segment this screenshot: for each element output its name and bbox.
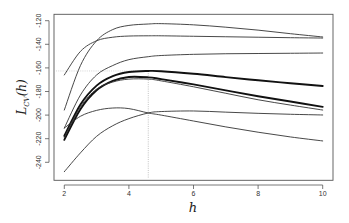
y-tick-label-group: -120: [35, 14, 42, 28]
x-axis-title: h: [189, 200, 197, 215]
y-tick-label-group: -220: [35, 132, 42, 146]
series-line-curve-6: [64, 79, 322, 138]
series-line-curve-4: [64, 71, 322, 136]
y-tick-label: -200: [35, 108, 42, 122]
series-line-curve-5: [64, 77, 322, 140]
y-axis-title: LCV(h): [15, 79, 31, 116]
series-line-curve-3: [64, 53, 322, 128]
y-tick-label-group: -180: [35, 84, 42, 98]
y-tick-label: -180: [35, 84, 42, 98]
series-line-curve-8: [64, 111, 322, 172]
y-tick-label: -160: [35, 61, 42, 75]
y-axis: -120-140-160-180-200-220-240: [35, 14, 49, 170]
y-tick-label: -140: [35, 37, 42, 51]
y-tick-label: -120: [35, 14, 42, 28]
svg-text:LCV(h): LCV(h): [15, 79, 31, 116]
y-tick-label: -220: [35, 132, 42, 146]
x-tick-label: 6: [192, 190, 196, 197]
x-tick-label: 10: [319, 190, 327, 197]
y-axis-title-arg: (h): [15, 79, 29, 96]
x-axis: 246810: [62, 185, 326, 197]
y-axis-title-main: L: [15, 107, 29, 116]
y-tick-label-group: -160: [35, 61, 42, 75]
plot-frame: [54, 14, 333, 180]
series-line-curve-2: [64, 36, 322, 75]
lcv-line-chart: 246810 -120-140-160-180-200-220-240 h LC…: [0, 0, 349, 223]
y-tick-label-group: -200: [35, 108, 42, 122]
y-tick-label-group: -140: [35, 37, 42, 51]
x-tick-label: 8: [256, 190, 260, 197]
x-tick-label: 4: [127, 190, 131, 197]
y-tick-label: -240: [35, 155, 42, 169]
x-tick-label: 2: [62, 190, 66, 197]
y-tick-label-group: -240: [35, 155, 42, 169]
series-group: [64, 24, 322, 172]
series-line-curve-7: [64, 108, 322, 141]
